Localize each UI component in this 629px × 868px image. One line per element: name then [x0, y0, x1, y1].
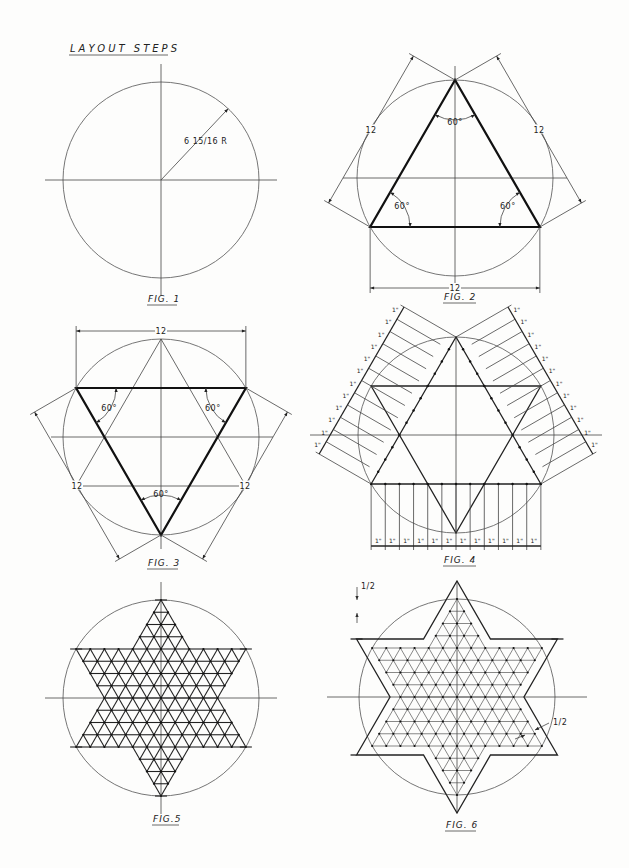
grid-line — [182, 698, 189, 710]
grid-line — [464, 758, 471, 770]
grid-point — [449, 757, 451, 759]
grid-line — [154, 612, 161, 624]
grid-point — [512, 720, 514, 722]
grid-line — [203, 710, 210, 722]
grid-line — [232, 649, 239, 661]
grid-line — [422, 697, 429, 709]
grid-line — [450, 624, 457, 636]
grid-point — [399, 696, 401, 698]
angle-arrow-icon — [435, 115, 439, 118]
grid-line — [147, 661, 154, 673]
grid-point — [491, 708, 493, 710]
grid-line — [393, 673, 400, 685]
grid-line — [161, 723, 168, 735]
grid-line — [429, 685, 436, 697]
grid-line — [429, 660, 436, 672]
grid-point — [89, 746, 91, 748]
division-projector — [528, 417, 571, 442]
grid-line — [450, 611, 457, 623]
caption-fig1: FIG. 1 — [148, 294, 180, 304]
arrowhead-icon — [284, 412, 287, 416]
arrowhead-icon — [116, 555, 119, 559]
grid-line — [140, 723, 147, 735]
grid-line — [450, 673, 457, 685]
grid-point — [160, 746, 162, 748]
grid-point — [428, 671, 430, 673]
grid-point — [421, 684, 423, 686]
grid-line — [457, 611, 464, 623]
grid-point — [224, 734, 226, 736]
grid-line — [464, 771, 471, 783]
division-projector — [355, 393, 398, 418]
grid-point — [224, 709, 226, 711]
grid-line — [218, 735, 225, 747]
grid-point — [174, 770, 176, 772]
arrowhead-icon — [329, 199, 332, 203]
extension-line — [456, 305, 511, 337]
grid-line — [492, 734, 499, 746]
grid-line — [111, 698, 118, 710]
division-point — [441, 360, 443, 362]
grid-point — [188, 697, 190, 699]
angle-arrow-icon — [471, 115, 475, 118]
grid-point — [442, 671, 444, 673]
grid-point — [139, 636, 141, 638]
grid-line — [133, 710, 140, 722]
grid-line — [168, 649, 175, 661]
grid-line — [471, 758, 478, 770]
division-point — [427, 483, 429, 485]
grid-point — [428, 647, 430, 649]
division-label: 1" — [502, 537, 509, 544]
grid-line — [492, 660, 499, 672]
grid-point — [442, 696, 444, 698]
grid-line — [90, 710, 97, 722]
grid-line — [140, 686, 147, 698]
grid-line — [436, 624, 443, 636]
division-projector — [333, 430, 376, 455]
extension-line — [316, 452, 371, 484]
division-projector — [326, 442, 369, 467]
caption-fig3: FIG. 3 — [148, 558, 180, 568]
extension-line — [541, 452, 596, 484]
grid-line — [182, 674, 189, 686]
grid-line — [161, 772, 168, 784]
grid-line — [393, 685, 400, 697]
grid-point — [463, 610, 465, 612]
grid-line — [203, 686, 210, 698]
grid-line — [422, 673, 429, 685]
grid-line — [499, 722, 506, 734]
grid-line — [182, 649, 189, 661]
grid-point — [103, 721, 105, 723]
grid-point — [160, 672, 162, 674]
grid-line — [429, 648, 436, 660]
grid-line — [443, 746, 450, 758]
grid-line — [429, 722, 436, 734]
grid-point — [512, 647, 514, 649]
grid-line — [161, 759, 168, 771]
grid-line — [225, 674, 232, 686]
grid-line — [182, 723, 189, 735]
grid-line — [457, 734, 464, 746]
grid-line — [514, 722, 521, 734]
grid-point — [153, 783, 155, 785]
arrowhead-icon — [242, 329, 246, 332]
angle-label: 60° — [500, 202, 516, 211]
grid-line — [175, 686, 182, 698]
division-projector — [507, 381, 550, 406]
grid-point — [428, 745, 430, 747]
division-point — [391, 446, 393, 448]
grid-point — [202, 697, 204, 699]
grid-point — [520, 659, 522, 661]
grid-point — [132, 672, 134, 674]
grid-point — [167, 685, 169, 687]
grid-line — [429, 673, 436, 685]
grid-line — [457, 722, 464, 734]
grid-point — [96, 685, 98, 687]
division-label: 1" — [364, 355, 371, 362]
angle-arrow-icon — [222, 419, 226, 422]
division-point — [518, 446, 520, 448]
grid-line — [485, 685, 492, 697]
grid-point — [498, 720, 500, 722]
division-point — [526, 483, 528, 485]
grid-point — [413, 745, 415, 747]
